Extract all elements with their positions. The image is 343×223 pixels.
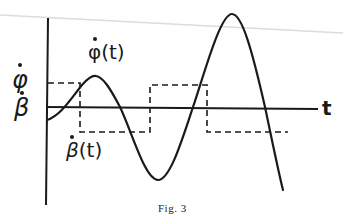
x-axis [46, 107, 318, 109]
x-axis-label-t: t [322, 98, 332, 118]
y-level-label-phi-dot: φ [12, 68, 28, 92]
beta-dot-symbol: β [14, 96, 29, 120]
y-level-label-beta-dot: β [14, 96, 29, 120]
y-axis [46, 18, 48, 205]
figure-caption: Fig. 3 [158, 202, 187, 214]
phi-dot-t-symbol: φ [88, 42, 101, 62]
curve-label-beta-dot-t: β(t) [66, 140, 102, 160]
scan-artifact-line [0, 15, 343, 33]
phi-dot-symbol: φ [12, 68, 28, 92]
beta-dot-t-arg: (t) [79, 138, 102, 162]
phi-dot-t-arg: (t) [101, 40, 124, 64]
beta-dot-t-symbol: β [66, 140, 79, 160]
curve-label-phi-dot-t: φ(t) [88, 42, 125, 62]
figure-canvas [0, 0, 343, 223]
phi-dot-curve [47, 14, 283, 190]
